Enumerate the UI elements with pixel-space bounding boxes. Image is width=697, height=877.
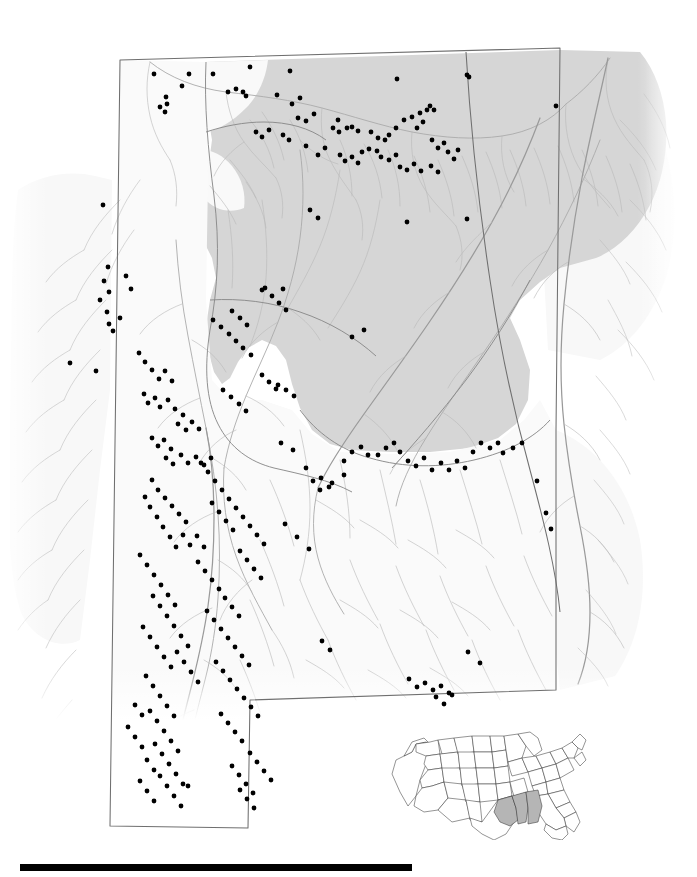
locality-dot bbox=[367, 147, 372, 152]
locality-dot bbox=[176, 422, 181, 427]
locality-dot bbox=[142, 392, 147, 397]
locality-dot bbox=[249, 705, 254, 710]
locality-dot bbox=[167, 762, 172, 767]
locality-dot bbox=[224, 519, 229, 524]
locality-dot bbox=[450, 693, 455, 698]
locality-dot bbox=[248, 65, 253, 70]
locality-dot bbox=[362, 328, 367, 333]
locality-dot bbox=[152, 573, 157, 578]
locality-dot bbox=[194, 455, 199, 460]
locality-dot bbox=[395, 77, 400, 82]
locality-dot bbox=[153, 742, 158, 747]
locality-dot bbox=[327, 485, 332, 490]
locality-dot bbox=[465, 217, 470, 222]
locality-dot bbox=[163, 369, 168, 374]
locality-dot bbox=[151, 594, 156, 599]
locality-dot bbox=[375, 149, 380, 154]
locality-dot bbox=[254, 130, 259, 135]
locality-dot bbox=[202, 545, 207, 550]
locality-dot bbox=[140, 713, 145, 718]
locality-dot bbox=[342, 473, 347, 478]
locality-dot bbox=[181, 533, 186, 538]
locality-dot bbox=[195, 534, 200, 539]
locality-dot bbox=[554, 104, 559, 109]
locality-dot bbox=[356, 161, 361, 166]
locality-dot bbox=[145, 789, 150, 794]
locality-dot bbox=[431, 688, 436, 693]
locality-dot bbox=[162, 729, 167, 734]
locality-dot bbox=[156, 444, 161, 449]
locality-dot bbox=[387, 158, 392, 163]
locality-dot bbox=[384, 446, 389, 451]
locality-dot bbox=[160, 752, 165, 757]
locality-dot bbox=[244, 409, 249, 414]
locality-dot bbox=[463, 466, 468, 471]
locality-dot bbox=[318, 488, 323, 493]
locality-dot bbox=[209, 456, 214, 461]
locality-dot bbox=[174, 545, 179, 550]
locality-dot bbox=[405, 168, 410, 173]
locality-dot bbox=[171, 462, 176, 467]
locality-dot bbox=[432, 108, 437, 113]
locality-dot bbox=[153, 396, 158, 401]
locality-dot bbox=[336, 118, 341, 123]
locality-dot bbox=[155, 645, 160, 650]
locality-dot bbox=[436, 146, 441, 151]
locality-dot bbox=[173, 407, 178, 412]
locality-dot bbox=[249, 353, 254, 358]
locality-dot bbox=[172, 714, 177, 719]
locality-dot bbox=[311, 479, 316, 484]
locality-dot bbox=[155, 719, 160, 724]
locality-dot bbox=[148, 635, 153, 640]
locality-dot bbox=[402, 118, 407, 123]
scale-bar bbox=[20, 864, 412, 871]
locality-dot bbox=[262, 769, 267, 774]
locality-dot bbox=[111, 329, 116, 334]
locality-dot bbox=[442, 702, 447, 707]
locality-dot bbox=[240, 739, 245, 744]
locality-dot bbox=[252, 567, 257, 572]
locality-dot bbox=[177, 512, 182, 517]
locality-dot bbox=[150, 368, 155, 373]
locality-dot bbox=[366, 453, 371, 458]
alabama-distribution-map bbox=[0, 0, 697, 877]
locality-dot bbox=[211, 72, 216, 77]
locality-dot bbox=[238, 788, 243, 793]
locality-dot bbox=[237, 773, 242, 778]
locality-dot bbox=[277, 301, 282, 306]
locality-dot bbox=[98, 298, 103, 303]
locality-dot bbox=[328, 648, 333, 653]
locality-dot bbox=[101, 203, 106, 208]
locality-dot bbox=[210, 578, 215, 583]
locality-dot bbox=[138, 779, 143, 784]
locality-dot bbox=[196, 560, 201, 565]
locality-dot bbox=[259, 576, 264, 581]
locality-dot bbox=[227, 332, 232, 337]
locality-dot bbox=[520, 441, 525, 446]
locality-dot bbox=[288, 69, 293, 74]
locality-dot bbox=[379, 155, 384, 160]
locality-dot bbox=[398, 165, 403, 170]
locality-dot bbox=[350, 335, 355, 340]
locality-dot bbox=[166, 398, 171, 403]
locality-dot bbox=[316, 216, 321, 221]
locality-dot bbox=[248, 524, 253, 529]
distribution-map-figure bbox=[0, 0, 697, 877]
locality-dot bbox=[179, 634, 184, 639]
locality-dot bbox=[284, 308, 289, 313]
locality-dot bbox=[169, 739, 174, 744]
locality-dot bbox=[206, 470, 211, 475]
locality-dot bbox=[383, 138, 388, 143]
locality-dot bbox=[312, 112, 317, 117]
locality-dot bbox=[181, 782, 186, 787]
locality-dot bbox=[234, 87, 239, 92]
locality-dot bbox=[544, 511, 549, 516]
locality-dot bbox=[276, 383, 281, 388]
locality-dot bbox=[165, 704, 170, 709]
locality-dot bbox=[279, 441, 284, 446]
locality-dot bbox=[394, 126, 399, 131]
locality-dot bbox=[350, 125, 355, 130]
locality-dot bbox=[164, 456, 169, 461]
locality-dot bbox=[304, 119, 309, 124]
locality-dot bbox=[155, 515, 160, 520]
